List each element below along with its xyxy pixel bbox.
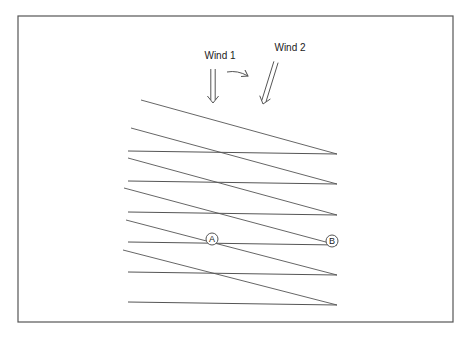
diagonal-line [131, 128, 337, 184]
horizontal-line [128, 151, 337, 154]
diagonal-line [123, 250, 337, 305]
horizontal-line [128, 302, 337, 305]
wind-1-arrow-icon [207, 69, 218, 103]
diagonal-line [141, 100, 337, 154]
horizontal-line [128, 212, 337, 215]
horizontal-line [128, 181, 337, 184]
wind-1: Wind 1 [204, 50, 236, 103]
horizontal-line [128, 242, 337, 245]
point-b: B [326, 235, 338, 247]
diagonal-line [126, 220, 337, 275]
diagonal-line [128, 158, 337, 215]
wind-2-label: Wind 2 [274, 42, 306, 53]
wind-diagram: Wind 1 Wind 2 AB [0, 0, 471, 339]
point-label: A [209, 234, 215, 244]
wind-2: Wind 2 [260, 42, 306, 104]
diagram-frame [18, 16, 453, 322]
point-a: A [206, 233, 218, 245]
wind-2-arrow-icon [260, 61, 278, 104]
point-label: B [329, 236, 335, 246]
wind-shift-arrow-icon [227, 72, 248, 77]
horizontal-line [128, 272, 337, 275]
line-group [123, 100, 337, 305]
wind-1-label: Wind 1 [204, 50, 236, 61]
diagonal-line [124, 188, 337, 245]
